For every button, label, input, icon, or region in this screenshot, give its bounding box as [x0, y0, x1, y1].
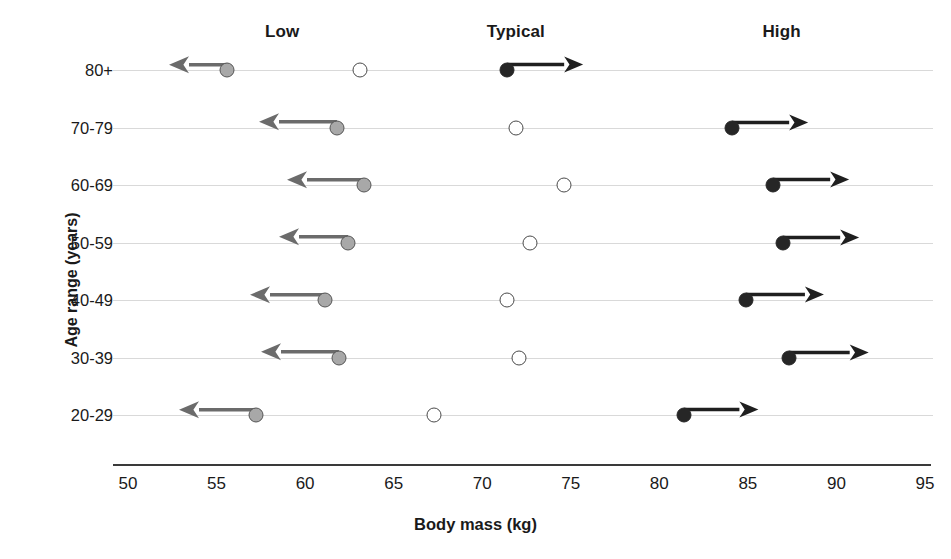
marker-low-60-69	[356, 178, 371, 193]
marker-typical-70-79	[508, 120, 523, 135]
x-axis-line	[113, 464, 931, 466]
marker-high-70-79	[724, 120, 739, 135]
marker-typical-50-59	[523, 235, 538, 250]
group-header-typical: Typical	[487, 22, 545, 42]
x-tick-label: 50	[119, 474, 138, 494]
x-tick-label: 90	[827, 474, 846, 494]
x-tick-label: 60	[296, 474, 315, 494]
x-tick-label: 65	[384, 474, 403, 494]
marker-high-80+	[500, 63, 515, 78]
x-tick-label: 85	[738, 474, 757, 494]
marker-high-20-29	[677, 408, 692, 423]
x-axis-title: Body mass (kg)	[0, 515, 951, 534]
marker-high-50-59	[776, 235, 791, 250]
group-header-low: Low	[265, 22, 299, 42]
group-header-high: High	[762, 22, 800, 42]
marker-high-60-69	[765, 178, 780, 193]
body-mass-age-chart: Age range (years) 80+70-7960-6950-5940-4…	[0, 0, 951, 559]
marker-typical-40-49	[500, 293, 515, 308]
marker-low-20-29	[248, 408, 263, 423]
x-tick-label: 70	[473, 474, 492, 494]
marker-typical-30-39	[512, 350, 527, 365]
x-tick-label: 80	[650, 474, 669, 494]
marker-low-70-79	[329, 120, 344, 135]
marker-low-80+	[220, 63, 235, 78]
marker-typical-80+	[353, 63, 368, 78]
marker-low-50-59	[340, 235, 355, 250]
marker-high-40-49	[739, 293, 754, 308]
marker-low-40-49	[317, 293, 332, 308]
x-tick-label: 75	[561, 474, 580, 494]
marker-high-30-39	[781, 350, 796, 365]
arrow-high-30-39	[783, 352, 875, 363]
marker-typical-60-69	[556, 178, 571, 193]
x-tick-label: 55	[207, 474, 226, 494]
marker-typical-20-29	[427, 408, 442, 423]
x-tick-label: 95	[916, 474, 935, 494]
marker-low-30-39	[331, 350, 346, 365]
